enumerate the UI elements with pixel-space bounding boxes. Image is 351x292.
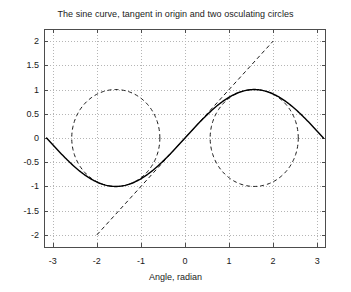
y-tick-label: 0 — [6, 133, 39, 143]
x-tick-label: 0 — [182, 256, 187, 266]
x-tick-label: -2 — [93, 256, 101, 266]
x-axis-title: Angle, radian — [0, 272, 351, 283]
x-tick-label: -1 — [137, 256, 145, 266]
x-tick-label: 2 — [271, 256, 276, 266]
plot-svg — [0, 0, 351, 292]
y-tick-label: 1.5 — [6, 60, 39, 70]
x-tick-label: -3 — [49, 256, 57, 266]
figure-canvas: The sine curve, tangent in origin and tw… — [0, 0, 351, 292]
y-tick-label: -1 — [6, 181, 39, 191]
y-tick-label: 1 — [6, 85, 39, 95]
y-tick-label: -1.5 — [6, 206, 39, 216]
y-tick-label: -0.5 — [6, 157, 39, 167]
y-tick-label: 0.5 — [6, 109, 39, 119]
x-tick-label: 1 — [227, 256, 232, 266]
x-tick-label: 3 — [315, 256, 320, 266]
y-tick-label: 2 — [6, 36, 39, 46]
y-tick-label: -2 — [6, 230, 39, 240]
